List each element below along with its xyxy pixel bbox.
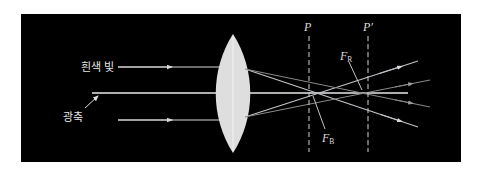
focus-blue-sub: B — [329, 137, 334, 146]
optical-axis-label: 광축 — [63, 111, 83, 124]
focus-red-sub: R — [347, 55, 352, 64]
plane-p-label: P — [303, 20, 312, 34]
incident-light-label: 흰색 빛 — [81, 61, 115, 74]
chromatic-aberration-diagram: 흰색 빛 광축 P P′ FR FB — [0, 0, 479, 174]
plane-p-prime-label: P′ — [362, 20, 373, 34]
